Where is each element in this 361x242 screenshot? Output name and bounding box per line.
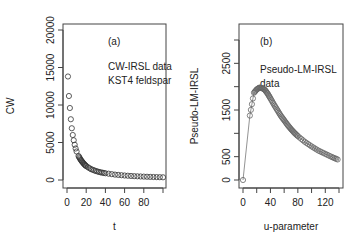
x-tick-label: 40 <box>100 197 112 208</box>
x-tick-label: 120 <box>317 197 334 208</box>
y-tick-label: 0 <box>221 177 232 183</box>
y-tick-label: 15000 <box>45 53 56 81</box>
figure: 05000100001500020000020406080tCW(a)CW-IR… <box>0 0 361 242</box>
y-axis-title: CW <box>5 97 16 114</box>
plot-frame <box>63 24 166 188</box>
plot-frame <box>239 24 343 188</box>
data-point <box>160 175 165 180</box>
annotation-text: CW-IRSL data <box>108 61 172 72</box>
y-axis-title: Pseudo-LM-IRSL <box>189 67 200 144</box>
y-tick-label: 0 <box>45 177 56 183</box>
data-point <box>65 74 70 79</box>
data-point <box>69 126 74 131</box>
data-point <box>67 105 72 110</box>
y-tick-label: 2500 <box>221 52 232 75</box>
y-tick-label: 5000 <box>45 131 56 154</box>
panel-label: (b) <box>260 36 272 47</box>
data-point <box>68 117 73 122</box>
x-tick-label: 0 <box>64 197 70 208</box>
y-tick-label: 20000 <box>45 16 56 44</box>
annotation-text: Pseudo-LM-IRSL <box>260 64 337 75</box>
panel-a-cw-irsl: 05000100001500020000020406080tCW(a)CW-IR… <box>5 16 172 232</box>
x-tick-label: 80 <box>138 197 150 208</box>
x-tick-label: 80 <box>292 197 304 208</box>
x-tick-label: 20 <box>81 197 93 208</box>
data-point <box>66 93 71 98</box>
panel-label: (a) <box>108 36 120 47</box>
annotation-text: KST4 feldspar <box>108 75 172 86</box>
x-tick-label: 40 <box>265 197 277 208</box>
y-tick-label: 500 <box>221 148 232 165</box>
y-tick-label: 10000 <box>45 91 56 119</box>
x-tick-label: 60 <box>119 197 131 208</box>
x-axis-title: t <box>113 221 116 232</box>
x-axis-title: u-parameter <box>264 221 319 232</box>
y-tick-label: 1500 <box>221 98 232 121</box>
data-point <box>73 146 78 151</box>
x-tick-label: 0 <box>240 197 246 208</box>
panel-b-pseudo-lm-irsl: 05001500250004080120u-parameterPseudo-LM… <box>189 24 343 232</box>
data-point <box>70 132 75 137</box>
series-line <box>243 88 338 180</box>
